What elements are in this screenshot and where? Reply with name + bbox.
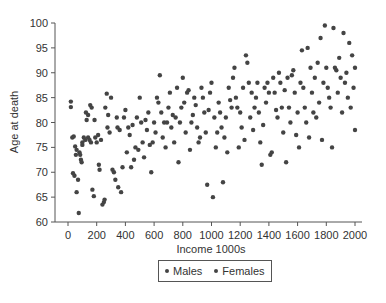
x-tick-label: 600 [145,229,163,241]
data-point [287,105,291,109]
data-point [241,85,245,89]
x-tick-label: 0 [65,229,71,241]
data-point [323,23,327,27]
data-point [351,85,355,89]
data-point [225,150,229,154]
legend-item-males: Males [165,265,202,277]
data-point [277,71,281,75]
x-tick-label: 1200 [228,229,252,241]
data-point [136,148,140,152]
x-tick-label: 1400 [257,229,281,241]
data-point [173,115,177,119]
data-point [346,95,350,99]
x-tick-label: 1600 [285,229,309,241]
data-point [202,110,206,114]
data-point [78,153,82,157]
data-point [69,99,73,103]
data-point [117,128,121,132]
data-point [69,105,73,109]
data-point [205,182,209,186]
y-axis: 6065707580859095100 [30,17,55,228]
data-point [186,88,190,92]
data-point [146,110,150,114]
legend-marker-icon [214,269,218,273]
data-point [252,105,256,109]
data-point [115,115,119,119]
data-point [353,128,357,132]
data-point [290,73,294,77]
data-point [262,85,266,89]
data-point [194,103,198,107]
x-tick-label: 2000 [343,229,367,241]
data-point [278,81,282,85]
data-point [308,66,312,70]
data-point [336,90,340,94]
data-point [76,178,80,182]
data-point [159,110,163,114]
data-point [92,194,96,198]
data-point [326,85,330,89]
data-point [222,135,226,139]
data-point [218,110,222,114]
data-point [74,190,78,194]
data-point [275,115,279,119]
data-point [341,31,345,35]
scatter-chart: 6065707580859095100 02004006008001000120… [0,0,386,303]
data-point [132,158,136,162]
data-point [242,138,246,142]
data-point [331,26,335,30]
data-point [235,105,239,109]
data-point [343,81,347,85]
data-point [198,135,202,139]
data-point [102,197,106,201]
y-tick-label: 100 [30,17,48,29]
data-point [215,130,219,134]
data-point [232,66,236,70]
data-point [188,148,192,152]
data-point [304,120,308,124]
data-point [183,130,187,134]
data-point [214,145,218,149]
data-point [282,88,286,92]
data-point [265,81,269,85]
data-point [191,113,195,117]
data-point [293,90,297,94]
data-point [307,135,311,139]
data-point [90,187,94,191]
x-axis: 0200400600800100012001400160018002000 [55,222,367,241]
data-point [113,178,117,182]
data-point [227,85,231,89]
data-point [189,120,193,124]
data-point [254,95,258,99]
data-point [340,110,344,114]
data-point [72,174,76,178]
data-point [338,76,342,80]
data-point [192,95,196,99]
data-point [234,95,238,99]
x-tick-label: 200 [88,229,106,241]
data-point [328,105,332,109]
y-tick-label: 75 [36,141,48,153]
data-point [106,113,110,117]
data-point [103,105,107,109]
x-tick-label: 1000 [199,229,223,241]
data-point [129,165,133,169]
data-point [74,153,78,157]
data-point [284,160,288,164]
data-points [69,23,358,215]
data-point [165,120,169,124]
y-tick-label: 80 [36,117,48,129]
data-point [212,115,216,119]
data-point [179,105,183,109]
data-point [206,108,210,112]
data-point [105,91,109,95]
data-point [142,155,146,159]
data-point [310,90,314,94]
data-point [280,105,284,109]
data-point [155,95,159,99]
data-point [105,125,109,129]
data-point [109,95,113,99]
data-point [122,115,126,119]
data-point [145,128,149,132]
data-point [347,41,351,45]
